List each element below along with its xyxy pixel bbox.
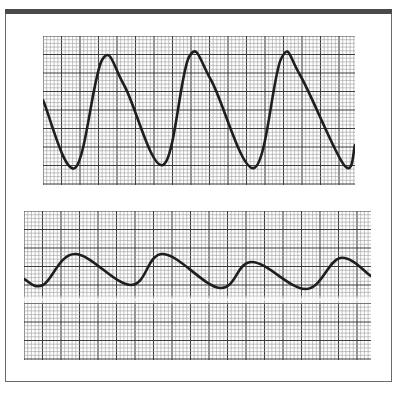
upper-chart-panel bbox=[43, 36, 355, 185]
lower-chart-graph-paper bbox=[24, 211, 371, 360]
lower-chart-panel bbox=[24, 211, 371, 360]
upper-chart-graph-paper bbox=[43, 36, 355, 185]
figure-frame-topbar bbox=[5, 9, 392, 14]
